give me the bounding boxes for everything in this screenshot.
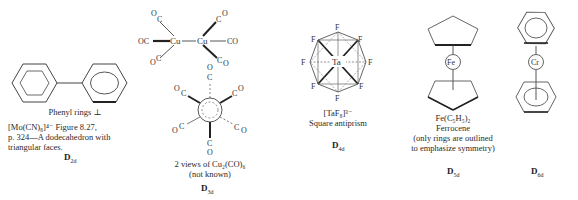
dibenzenechromium-structure: Cr bbox=[0, 0, 578, 200]
svg-text:Cr: Cr bbox=[531, 58, 539, 67]
point-group-d6d: D6d bbox=[531, 166, 544, 178]
